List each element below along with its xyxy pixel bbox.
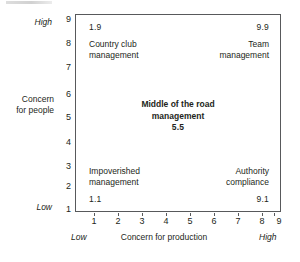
quadrant-country-club-management: 1.9 Country club management <box>89 22 139 62</box>
y-axis-tick-labels: 9 8 7 6 5 4 3 2 1 <box>56 14 71 212</box>
x-tick-7: 7 <box>230 216 246 226</box>
x-tick-1: 1 <box>86 216 102 226</box>
quadrant-label-line1-br: Authority <box>235 166 269 176</box>
scan-artifact-bar <box>6 1 52 4</box>
y-tick-7: 7 <box>56 62 71 72</box>
quadrant-label-line2-br: compliance <box>226 177 269 187</box>
grid-plot-area: 1.9 Country club management 9.9 Team man… <box>75 14 281 212</box>
quadrant-middle-of-the-road-management: Middle of the road management 5.5 <box>76 99 280 134</box>
y-axis-title-line1: Concern <box>22 94 54 104</box>
y-tick-3: 3 <box>56 161 71 171</box>
x-tick-2: 2 <box>110 216 126 226</box>
quadrant-impoverished-management: Impoverished management 1.1 <box>89 166 140 206</box>
quadrant-label-line1-tr: Team <box>248 39 269 49</box>
quadrant-authority-compliance: Authority compliance 9.1 <box>226 166 269 206</box>
y-tick-5: 5 <box>56 112 71 122</box>
quadrant-label-line2-center: management <box>152 111 204 121</box>
y-tick-4: 4 <box>56 137 71 147</box>
quadrant-code-1-9: 1.9 <box>89 22 101 32</box>
quadrant-label-line1-tl: Country club <box>89 39 137 49</box>
y-tick-6: 6 <box>56 89 71 99</box>
x-axis-tick-labels: 1 2 3 4 5 6 7 8 9 <box>75 213 281 227</box>
x-tick-3: 3 <box>134 216 150 226</box>
quadrant-label-line1-bl: Impoverished <box>89 166 140 176</box>
y-tick-9: 9 <box>56 14 71 24</box>
x-tick-6: 6 <box>206 216 222 226</box>
y-axis-title: Concern for people <box>2 94 54 116</box>
y-tick-1: 1 <box>56 204 71 214</box>
y-tick-2: 2 <box>56 181 71 191</box>
y-axis-low-label: Low <box>8 202 52 212</box>
quadrant-team-management: 9.9 Team management <box>219 22 269 62</box>
x-tick-8: 8 <box>254 216 270 226</box>
quadrant-code-9-9: 9.9 <box>257 22 269 32</box>
quadrant-label-line2-tl: management <box>89 50 139 60</box>
y-axis-title-line2: for people <box>16 105 54 115</box>
x-tick-9: 9 <box>271 216 287 226</box>
x-tick-5: 5 <box>182 216 198 226</box>
x-axis-title: Concern for production <box>0 232 300 243</box>
managerial-grid-figure: High Low Concern for people 9 8 7 6 5 4 … <box>0 0 300 262</box>
quadrant-code-9-1: 9.1 <box>257 194 269 204</box>
quadrant-code-1-1: 1.1 <box>89 194 101 204</box>
x-tick-4: 4 <box>158 216 174 226</box>
y-axis-high-label: High <box>8 17 52 27</box>
y-tick-8: 8 <box>56 38 71 48</box>
quadrant-label-line2-bl: management <box>89 177 139 187</box>
quadrant-code-5-5: 5.5 <box>172 122 184 132</box>
quadrant-label-line1-center: Middle of the road <box>141 99 214 109</box>
quadrant-label-line2-tr: management <box>219 50 269 60</box>
